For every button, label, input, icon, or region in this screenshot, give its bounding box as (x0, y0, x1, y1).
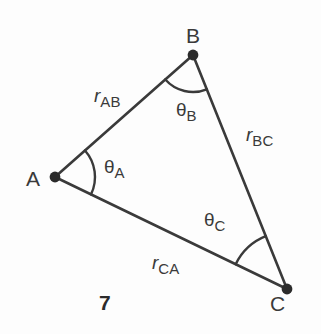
angle-label-theta-a: θA (104, 157, 125, 180)
triangle-figure: A B C rAB rBC rCA θA θB θC 7 (0, 0, 321, 334)
angle-label-theta-b: θB (176, 100, 197, 123)
angle-label-theta-a-base: θ (104, 156, 115, 177)
side-label-rab: rAB (94, 86, 121, 109)
side-label-rbc: rBC (246, 125, 273, 148)
side-label-rbc-subscript: BC (252, 132, 273, 149)
angle-label-theta-b-base: θ (176, 99, 187, 120)
angle-label-theta-a-subscript: A (115, 164, 125, 181)
vertex-dot-a (50, 172, 61, 183)
angle-label-theta-b-subscript: B (187, 107, 197, 124)
angle-label-theta-c: θC (204, 210, 226, 233)
side-label-rca-subscript: CA (158, 260, 179, 277)
angle-arc-b (165, 80, 207, 92)
triangle-diagram-svg (0, 0, 321, 334)
vertex-label-c: C (270, 293, 285, 314)
angle-label-theta-c-base: θ (204, 209, 215, 230)
vertex-dot-b (188, 50, 199, 61)
vertex-label-a: A (26, 168, 40, 189)
side-label-rab-subscript: AB (100, 93, 120, 110)
angle-arc-a (85, 151, 95, 195)
angle-arc-c (236, 236, 266, 264)
vertex-label-b: B (186, 25, 200, 46)
side-label-rca: rCA (152, 253, 179, 276)
angle-label-theta-c-subscript: C (215, 217, 226, 234)
figure-number: 7 (99, 292, 111, 313)
